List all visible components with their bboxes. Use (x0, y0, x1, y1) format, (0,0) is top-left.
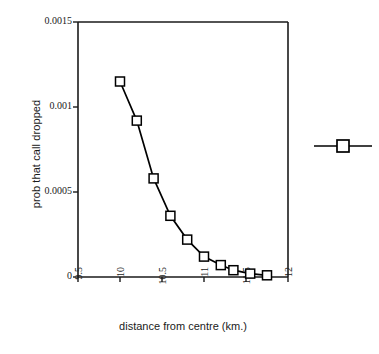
data-point-marker (263, 271, 272, 280)
data-series-markers (116, 77, 272, 280)
legend-entry (314, 140, 372, 152)
data-series-line (120, 82, 267, 276)
data-point-marker (216, 261, 225, 270)
chart-figure: prob that call dropped distance from cen… (0, 0, 379, 354)
data-point-marker (132, 116, 141, 125)
data-point-marker (166, 211, 175, 220)
data-point-marker (116, 77, 125, 86)
legend-square-marker-icon (337, 140, 349, 152)
data-point-marker (200, 252, 209, 261)
data-point-marker (183, 235, 192, 244)
data-point-marker (229, 266, 238, 275)
legend (312, 132, 374, 160)
data-point-marker (246, 269, 255, 278)
data-point-marker (149, 174, 158, 183)
plot-area (0, 0, 379, 354)
